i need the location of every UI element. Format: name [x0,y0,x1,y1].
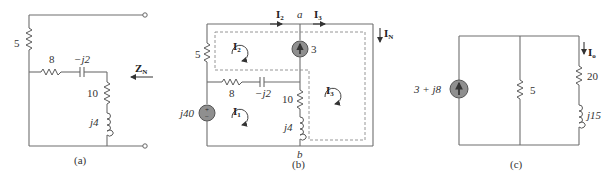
label-in: IN [384,27,393,41]
label-r8: 8 [49,53,55,65]
circuit-a: 5 8 −j2 10 j4 ZN (a) [14,13,153,167]
label-r10: 10 [87,87,99,99]
label-r10: 10 [282,93,294,105]
label-cap: −j2 [74,53,90,65]
inductor-j15 [579,105,585,128]
label-loop-i1: I1 [233,105,241,119]
resistor-10 [104,82,110,104]
circuit-b: + − I2 I1 I3 I2 I3 IN 5 [178,8,393,171]
label-ind: j15 [585,109,602,121]
resistor-10 [297,90,303,109]
label-io: Io [588,46,596,60]
resistor-20 [576,66,582,85]
caption-c: (c) [510,158,523,171]
circuit-figure: 5 8 −j2 10 j4 ZN (a) + − [0,0,614,179]
inductor-j4 [107,113,113,136]
minus-sign: − [205,113,209,121]
label-i2-top: I2 [276,8,284,22]
label-r5: 5 [530,84,536,96]
label-node-a: a [297,8,303,20]
label-r5: 5 [195,48,201,60]
label-zn: ZN [135,62,147,76]
resistor-5 [204,43,210,62]
resistor-8 [41,69,61,75]
label-isrc: 3 + j8 [413,83,441,95]
label-cap: −j2 [255,87,271,99]
label-vsrc: j40 [178,107,195,119]
label-loop-i2: I2 [233,40,241,54]
inductor-j4 [300,117,306,140]
label-ind: j4 [88,116,99,128]
terminal-bottom [143,144,147,148]
caption-a: (a) [74,154,87,167]
caption-b: (b) [292,158,305,171]
resistor-5 [517,80,523,99]
resistor-5 [26,28,32,50]
label-r5: 5 [14,37,20,49]
circuit-c: Io 3 + j8 5 20 j15 (c) [413,36,602,171]
label-r8: 8 [229,87,235,99]
terminal-top [143,13,147,17]
label-loop-i3: I3 [326,84,334,98]
resistor-8 [222,79,242,85]
label-i3-top: I3 [314,8,322,22]
label-ind: j4 [282,121,293,133]
label-r20: 20 [587,70,599,82]
label-isrc: 3 [311,43,317,55]
